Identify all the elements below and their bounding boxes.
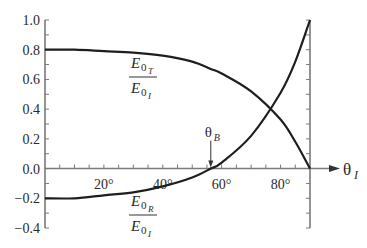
x-tick-label: 60° (212, 177, 232, 192)
fraction-denominator-subsub: I (147, 229, 152, 239)
transmission-label: E0TE0I (129, 55, 157, 101)
y-tick-label: 0.0 (23, 162, 41, 177)
fraction-denominator: E (130, 218, 140, 234)
y-tick-label: 0.2 (23, 132, 41, 147)
fraction-numerator: E (130, 193, 140, 209)
x-tick-label: 80° (271, 177, 291, 192)
brewster-label-sub: B (214, 132, 220, 143)
fraction-denominator-subsub: I (147, 91, 152, 101)
fraction-denominator: E (130, 80, 140, 96)
y-tick-label: −0.2 (15, 191, 40, 206)
fraction-numerator: E (130, 55, 140, 71)
x-axis: 20°40°60°80°θI (45, 160, 359, 192)
fraction-numerator-subsub: T (148, 66, 154, 76)
y-tick-label: 1.0 (23, 13, 41, 28)
y-axis: 1.00.80.60.40.20.0−0.2−0.4 (15, 13, 49, 236)
y-tick-label: −0.4 (15, 221, 40, 236)
y-tick-label: 0.6 (23, 72, 41, 87)
right-axis (306, 20, 310, 228)
curves (45, 20, 310, 199)
labels: E0TE0IE0RE0IθB (129, 55, 220, 239)
fresnel-chart: 1.00.80.60.40.20.0−0.2−0.4 20°40°60°80°θ… (0, 0, 367, 248)
brewster-arrow-icon (208, 161, 213, 168)
brewster-label: θ (205, 124, 212, 140)
x-tick-label: 20° (94, 177, 114, 192)
brewster-annotation: θB (205, 124, 220, 168)
fraction-numerator-sub: 0 (141, 61, 147, 73)
fraction-denominator-sub: 0 (141, 86, 147, 98)
y-tick-label: 0.4 (23, 102, 41, 117)
x-axis-label-sub: I (353, 168, 359, 182)
fraction-denominator-sub: 0 (141, 224, 147, 236)
y-tick-label: 0.8 (23, 43, 41, 58)
x-axis-arrow-icon (329, 165, 340, 172)
fraction-numerator-subsub: R (147, 204, 154, 214)
reflection-curve (45, 20, 310, 199)
x-axis-label: θ (343, 160, 351, 179)
reflection-label: E0RE0I (129, 193, 157, 239)
fraction-numerator-sub: 0 (141, 199, 147, 211)
